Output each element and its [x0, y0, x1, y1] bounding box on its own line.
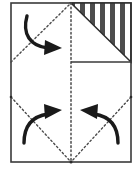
vertex-dot-left [10, 96, 13, 99]
fold-diagram-figure [0, 0, 139, 182]
vertex-dot-bottom-center [70, 161, 73, 164]
vertex-dot-right [130, 96, 133, 99]
fold-diagram-canvas [0, 0, 139, 182]
